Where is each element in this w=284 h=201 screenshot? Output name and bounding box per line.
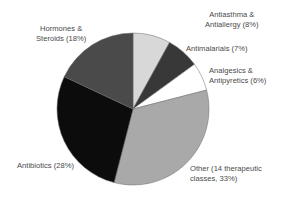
label-analgesics: Analgesics & Antipyretics (6%)	[209, 66, 266, 85]
label-hormones-line2: Steroids (18%)	[36, 34, 86, 44]
label-analgesics-line2: Antipyretics (6%)	[209, 76, 266, 86]
label-antibiotics: Antibiotics (28%)	[17, 161, 74, 171]
label-antiasthma-line1: Antiasthma &	[205, 10, 259, 20]
label-antiasthma: Antiasthma & Antiallergy (8%)	[205, 10, 259, 29]
label-hormones: Hormones & Steroids (18%)	[36, 24, 86, 43]
pie-slices	[57, 33, 209, 185]
label-other: Other (14 therapeutic classes, 33%)	[190, 164, 262, 183]
label-analgesics-line1: Analgesics &	[209, 66, 266, 76]
label-antimalarials-line1: Antimalarials (7%)	[186, 44, 248, 54]
label-other-line1: Other (14 therapeutic	[190, 164, 262, 174]
label-antimalarials: Antimalarials (7%)	[186, 44, 248, 54]
label-antiasthma-line2: Antiallergy (8%)	[205, 20, 259, 30]
label-antibiotics-line1: Antibiotics (28%)	[17, 161, 74, 171]
label-other-line2: classes, 33%)	[190, 174, 262, 184]
label-hormones-line1: Hormones &	[36, 24, 86, 34]
